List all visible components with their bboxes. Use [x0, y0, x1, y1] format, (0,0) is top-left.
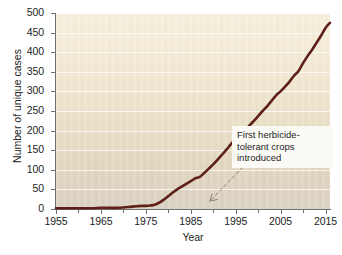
gridline — [56, 13, 330, 14]
y-tick-label: 500 — [0, 6, 44, 18]
x-tick-minor — [78, 210, 79, 213]
gridline — [56, 189, 330, 190]
x-tick-label: 2015 — [306, 215, 342, 227]
y-tick-label: 0 — [0, 202, 44, 214]
gridline — [56, 111, 330, 112]
y-axis-title: Number of unique cases — [11, 26, 23, 186]
x-axis-title: Year — [56, 231, 330, 243]
y-tick — [51, 111, 55, 112]
x-tick-label: 1965 — [81, 215, 121, 227]
x-tick-minor — [213, 210, 214, 213]
x-tick — [191, 210, 192, 214]
y-tick — [51, 33, 55, 34]
x-tick — [56, 210, 57, 214]
x-tick-label: 1985 — [171, 215, 211, 227]
x-tick-label: 1975 — [126, 215, 166, 227]
y-tick — [51, 150, 55, 151]
x-tick — [101, 210, 102, 214]
gridline — [56, 72, 330, 73]
gridline — [56, 52, 330, 53]
y-tick — [51, 52, 55, 53]
x-tick — [326, 210, 327, 214]
x-tick — [281, 210, 282, 214]
y-tick — [51, 189, 55, 190]
gridline — [56, 33, 330, 34]
y-tick — [51, 72, 55, 73]
y-tick — [51, 209, 55, 210]
y-tick — [51, 170, 55, 171]
annotation-line-3: introduced — [237, 152, 329, 164]
x-tick — [236, 210, 237, 214]
x-tick-minor — [303, 210, 304, 213]
y-axis-line — [55, 13, 56, 210]
x-tick-label: 1955 — [36, 215, 76, 227]
gridline — [56, 91, 330, 92]
annotation-line-1: First herbicide- — [237, 129, 329, 141]
x-tick-minor — [258, 210, 259, 213]
y-tick — [51, 131, 55, 132]
annotation-callout: First herbicide- tolerant crops introduc… — [232, 126, 333, 168]
y-tick — [51, 91, 55, 92]
x-axis-line — [55, 209, 331, 210]
x-tick-label: 2005 — [261, 215, 301, 227]
x-tick-label: 1995 — [216, 215, 256, 227]
annotation-line-2: tolerant crops — [237, 141, 329, 153]
y-tick — [51, 13, 55, 14]
x-tick — [146, 210, 147, 214]
x-tick-minor — [168, 210, 169, 213]
x-tick-minor — [123, 210, 124, 213]
plot-area — [56, 13, 330, 209]
gridline — [56, 170, 330, 171]
